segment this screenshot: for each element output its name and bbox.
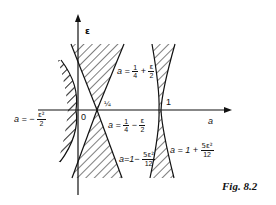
label-upper-wedge: a = 14 + ε2 xyxy=(117,64,154,79)
epsilon-axis-arrow-icon xyxy=(75,14,81,22)
left-crescent-hatch xyxy=(58,60,77,162)
a-axis-arrow-icon xyxy=(224,107,232,113)
tick-quarter-label: ¼ xyxy=(104,100,111,108)
label-lower-wedge: a = 14 − ε2 xyxy=(108,118,145,133)
origin-label: 0 xyxy=(81,113,86,122)
a-axis-label: a xyxy=(208,117,213,126)
label-left-curve: a = − ε²2 xyxy=(14,112,46,127)
stability-diagram xyxy=(0,0,276,205)
label-right-of-one: a = 1 + 5ε²12 xyxy=(170,143,214,158)
label-left-of-one: a=1− 5ε²12 xyxy=(119,152,155,167)
tick-one-label: 1 xyxy=(166,98,171,107)
figure-caption: Fig. 8.2 xyxy=(222,180,257,192)
epsilon-axis-label: ε xyxy=(85,27,90,36)
